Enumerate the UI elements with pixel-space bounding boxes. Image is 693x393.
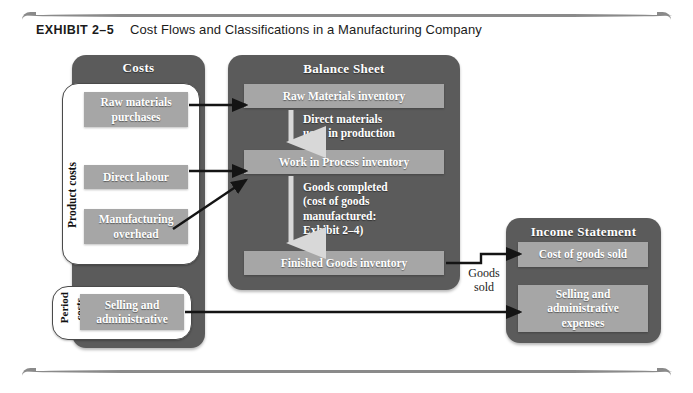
chip-raw-materials-inventory[interactable]: Raw Materials inventory [244,84,444,108]
panel-balance-sheet-title: Balance Sheet [228,61,460,77]
top-rule-left-cap [22,12,36,25]
chip-work-in-process-inventory[interactable]: Work in Process inventory [244,150,444,174]
note-direct-materials-used: Direct materials used in production [303,112,395,141]
panel-costs-title: Costs [72,60,205,76]
bottom-rule-left-cap [22,368,36,381]
chip-cost-of-goods-sold[interactable]: Cost of goods sold [518,242,648,267]
chip-raw-materials-purchases[interactable]: Raw materials purchases [84,92,188,127]
exhibit-label: EXHIBIT 2–5 [36,23,114,37]
exhibit-figure: EXHIBIT 2–5 Cost Flows and Classificatio… [0,0,693,393]
panel-income-statement-title: Income Statement [506,224,661,240]
bottom-rule [24,370,672,373]
chip-finished-goods-inventory[interactable]: Finished Goods inventory [244,251,444,275]
chip-selling-and-administrative[interactable]: Selling and administrative [80,294,184,330]
note-goods-completed: Goods completed (cost of goods manufactu… [303,180,388,238]
chip-direct-labour[interactable]: Direct labour [84,165,188,189]
chip-manufacturing-overhead[interactable]: Manufacturing overhead [84,209,188,244]
group-period-costs-label-line1: Period [58,292,70,323]
top-rule [24,14,672,17]
caption-goods-sold: Goods sold [462,266,506,295]
bottom-rule-right-cap [657,368,671,381]
top-rule-right-cap [657,12,671,25]
exhibit-heading: EXHIBIT 2–5 Cost Flows and Classificatio… [36,22,482,40]
chip-selling-administrative-expenses[interactable]: Selling and administrative expenses [518,285,648,332]
exhibit-title: Cost Flows and Classifications in a Manu… [130,22,482,37]
group-product-costs-label: Product costs [66,150,79,240]
